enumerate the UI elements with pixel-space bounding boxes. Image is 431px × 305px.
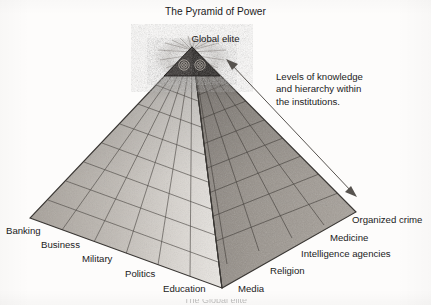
apex-label-global-elite: Global elite	[0, 33, 431, 44]
label-banking: Banking	[6, 225, 41, 236]
label-medicine: Medicine	[330, 232, 368, 243]
annotation-line-3: the institutions.	[276, 96, 426, 108]
annotation-line-1: Levels of knowledge	[276, 71, 426, 83]
annotation-levels-of-knowledge: Levels of knowledge and hierarchy within…	[276, 71, 426, 108]
page-title: The Pyramid of Power	[0, 6, 431, 17]
pyramid-illustration	[0, 0, 431, 305]
annotation-line-2: and hierarchy within	[276, 83, 426, 95]
bottom-cropped-caption: The Global elite	[0, 299, 431, 305]
label-business: Business	[41, 239, 80, 250]
label-education: Education	[163, 283, 206, 294]
pyramid-of-power-diagram: The Pyramid of Power Global elite Levels…	[0, 0, 431, 305]
bottom-cropped-caption-text: The Global elite	[0, 299, 431, 305]
label-military: Military	[82, 253, 112, 264]
label-politics: Politics	[125, 268, 155, 279]
label-media: Media	[238, 283, 264, 294]
label-intelligence-agencies: Intelligence agencies	[301, 248, 391, 259]
label-organized-crime: Organized crime	[352, 214, 422, 225]
label-religion: Religion	[270, 265, 305, 276]
